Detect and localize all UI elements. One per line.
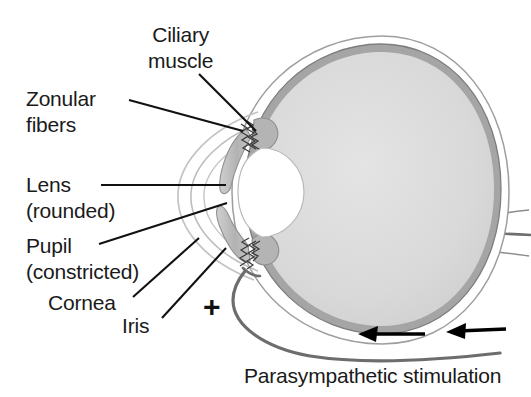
plus-sign-symbol: + [203, 292, 221, 322]
leader-line-zonular [129, 100, 243, 131]
label-ciliary-muscle-line2: muscle [148, 48, 213, 74]
flow-arrow-right [446, 323, 506, 339]
label-iris-line1: Iris [122, 313, 149, 338]
label-ciliary-muscle: Ciliary muscle [148, 22, 213, 74]
label-zonular-fibers-line1: Zonular [26, 86, 96, 112]
label-pupil: Pupil (constricted) [26, 233, 139, 285]
label-cornea-line1: Cornea [48, 290, 116, 315]
label-zonular-fibers-line2: fibers [26, 112, 96, 138]
leader-line-ciliary [199, 74, 256, 131]
label-parasympathetic-stimulation: Parasympathetic stimulation [244, 363, 501, 388]
label-cornea: Cornea [48, 290, 116, 315]
eye-diagram-figure: Ciliary muscle Zonular fibers Lens (roun… [0, 0, 531, 397]
label-lens-line2: (rounded) [26, 198, 115, 224]
label-ciliary-muscle-line1: Ciliary [148, 22, 213, 48]
label-zonular-fibers: Zonular fibers [26, 86, 96, 138]
label-lens: Lens (rounded) [26, 172, 115, 224]
label-pupil-line2: (constricted) [26, 259, 139, 285]
label-iris: Iris [122, 313, 149, 338]
label-parasympathetic-stimulation-line1: Parasympathetic stimulation [244, 363, 501, 388]
label-pupil-line1: Pupil [26, 233, 139, 259]
label-lens-line1: Lens [26, 172, 115, 198]
